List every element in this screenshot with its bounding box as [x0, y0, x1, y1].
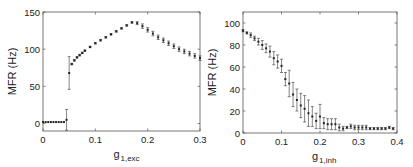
y-tick-label: 100: [224, 18, 240, 29]
data-point: [131, 21, 133, 23]
y-tick-label: 100: [24, 44, 40, 55]
data-point: [136, 22, 138, 24]
x-tick-label: 0: [40, 134, 45, 145]
data-point: [79, 54, 81, 56]
data-point: [94, 42, 96, 44]
data-point: [194, 55, 196, 57]
data-point: [52, 121, 54, 123]
data-point: [384, 128, 386, 130]
data-point: [58, 121, 60, 123]
data-point: [281, 65, 283, 67]
data-point: [183, 50, 185, 52]
data-point: [265, 47, 267, 49]
y-tick-label: 50: [29, 81, 40, 92]
data-point: [71, 63, 73, 65]
data-point: [315, 120, 317, 122]
data-point: [311, 116, 313, 118]
data-point: [373, 128, 375, 130]
data-point: [307, 112, 309, 114]
x-tick-label: 0.1: [89, 134, 102, 145]
data-point: [338, 127, 340, 129]
data-point: [269, 51, 271, 53]
data-point: [147, 29, 149, 31]
x-tick-label: 0.3: [352, 136, 365, 147]
data-point: [323, 122, 325, 124]
x-tick-label: 0.1: [275, 136, 288, 147]
chart-canvas: 00.10.20.3050100150MFR (Hz)g1,exc00.10.2…: [0, 0, 413, 167]
y-tick-label: 0: [35, 118, 40, 129]
data-point: [141, 25, 143, 27]
data-point: [381, 128, 383, 130]
plot-right: 00.10.20.30.4020406080100MFR (Hz)g1,inh: [206, 12, 404, 165]
plot-left: 00.10.20.3050100150MFR (Hz)g1,exc: [6, 7, 207, 164]
data-point: [168, 42, 170, 44]
x-axis-label-subscript: 1,inh: [319, 156, 336, 165]
x-tick-label: 0.2: [313, 136, 326, 147]
data-point: [257, 41, 259, 43]
data-point: [126, 24, 128, 26]
data-point: [246, 32, 248, 34]
figure: 00.10.20.3050100150MFR (Hz)g1,exc00.10.2…: [0, 0, 413, 167]
x-axis-label-subscript: 1,exc: [121, 154, 140, 163]
x-tick-label: 0.3: [193, 134, 206, 145]
data-point: [66, 119, 68, 121]
data-point: [319, 116, 321, 118]
data-point: [105, 36, 107, 38]
data-point: [76, 56, 78, 58]
data-point: [81, 52, 83, 54]
data-point: [354, 127, 356, 129]
data-point: [162, 39, 164, 41]
x-tick-label: 0: [240, 136, 245, 147]
y-tick-label: 80: [229, 40, 240, 51]
data-point: [50, 121, 52, 123]
data-point: [377, 128, 379, 130]
data-point: [60, 121, 62, 123]
data-point: [277, 61, 279, 63]
data-point: [365, 127, 367, 129]
data-point: [89, 46, 91, 48]
data-point: [334, 123, 336, 125]
data-point: [68, 72, 70, 74]
data-point: [100, 39, 102, 41]
data-point: [242, 30, 244, 32]
y-tick-label: 150: [24, 7, 40, 18]
data-point: [358, 127, 360, 129]
data-point: [63, 121, 65, 123]
data-point: [199, 57, 201, 59]
data-point: [369, 128, 371, 130]
data-point: [342, 128, 344, 130]
y-axis-label: MFR (Hz): [206, 49, 218, 97]
data-point: [288, 83, 290, 85]
data-point: [331, 123, 333, 125]
data-point: [73, 59, 75, 61]
data-point: [121, 27, 123, 29]
y-tick-label: 20: [229, 106, 240, 117]
data-point: [47, 121, 49, 123]
data-point: [42, 121, 44, 123]
x-axis-label: g: [114, 148, 120, 160]
data-point: [152, 33, 154, 35]
data-point: [250, 34, 252, 36]
data-point: [261, 44, 263, 46]
data-point: [392, 128, 394, 130]
data-point: [350, 125, 352, 127]
data-point: [45, 121, 47, 123]
data-point: [300, 105, 302, 107]
data-point: [296, 99, 298, 101]
x-tick-label: 0.2: [141, 134, 154, 145]
y-axis-label: MFR (Hz): [6, 48, 18, 96]
data-point: [254, 37, 256, 39]
data-point: [115, 30, 117, 32]
data-point: [327, 123, 329, 125]
data-point: [55, 121, 57, 123]
data-point: [388, 127, 390, 129]
data-point: [110, 33, 112, 35]
y-tick-label: 40: [229, 84, 240, 95]
data-point: [178, 48, 180, 50]
data-point: [157, 36, 159, 38]
data-point: [284, 78, 286, 80]
data-point: [273, 57, 275, 59]
data-point: [304, 108, 306, 110]
data-point: [84, 50, 86, 52]
data-point: [173, 45, 175, 47]
